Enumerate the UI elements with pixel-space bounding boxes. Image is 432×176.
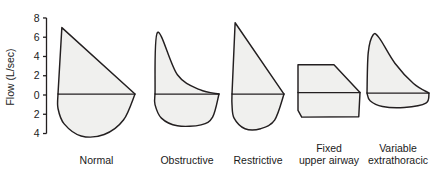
panel-label: Variable	[379, 142, 417, 154]
flow-volume-loop-figure: 8642024Flow (L/sec) NormalObstructiveRes…	[0, 0, 432, 176]
y-axis: 8642024Flow (L/sec)	[4, 12, 47, 140]
loop-fill	[155, 32, 219, 126]
loop-panel	[298, 65, 360, 117]
loop-panel	[232, 23, 284, 130]
y-axis-tick-label: 8	[34, 12, 40, 24]
y-axis-tick-label: 4	[34, 50, 40, 62]
panel-label: upper airway	[299, 154, 360, 166]
y-axis-title: Flow (L/sec)	[4, 48, 16, 105]
y-axis-tick-label: 2	[34, 69, 40, 81]
panel-label: Fixed	[316, 142, 342, 154]
panel-label: Obstructive	[160, 154, 213, 166]
y-axis-tick-label: 6	[34, 31, 40, 43]
panel-label: Normal	[80, 154, 114, 166]
loop-panels	[58, 23, 429, 137]
loop-panel	[155, 32, 219, 126]
loop-panel	[58, 28, 135, 137]
loop-panel	[367, 34, 429, 108]
panel-label: extrathoracic	[368, 154, 428, 166]
y-axis-tick-label: 4	[34, 127, 40, 139]
panel-label: Restrictive	[233, 154, 282, 166]
flow-volume-chart: 8642024Flow (L/sec) NormalObstructiveRes…	[0, 0, 432, 176]
y-axis-tick-label: 2	[34, 108, 40, 120]
y-axis-tick-label: 0	[34, 89, 40, 101]
loop-fill	[232, 23, 284, 130]
loop-fill	[298, 65, 360, 117]
loop-fill	[367, 34, 429, 108]
panel-labels: NormalObstructiveRestrictiveFixedupper a…	[80, 142, 428, 166]
